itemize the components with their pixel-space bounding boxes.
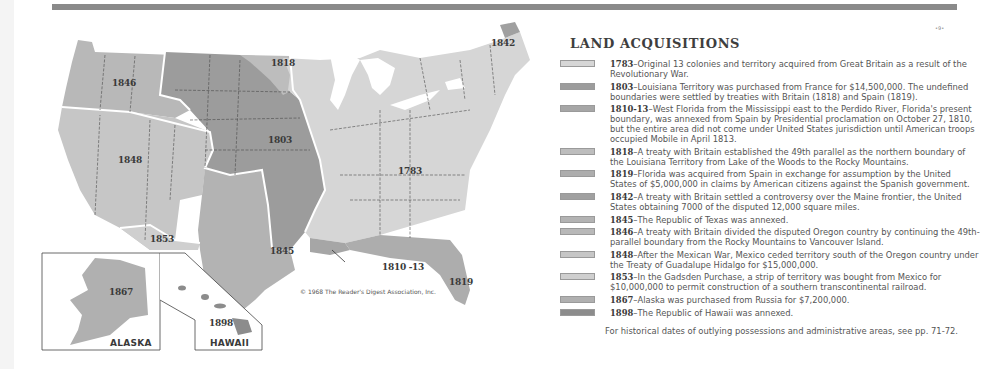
legend-swatch xyxy=(560,83,595,90)
copyright-notice: © 1968 The Reader's Digest Association, … xyxy=(300,288,436,295)
legend-text: The Republic of Texas was annexed. xyxy=(638,215,789,225)
legend-swatch xyxy=(560,105,595,112)
legend-swatch xyxy=(560,228,595,235)
label-1898: 1898 xyxy=(209,318,233,328)
legend-list: 1783–Original 13 colonies and territory … xyxy=(560,59,980,318)
legend-swatch xyxy=(560,296,595,303)
legend-swatch xyxy=(560,193,595,200)
legend-text: The Republic of Hawaii was annexed. xyxy=(638,308,794,318)
legend-year: 1848 xyxy=(610,250,633,260)
legend-text: Alaska was purchased from Russia for $7,… xyxy=(638,295,850,305)
region-1783 xyxy=(283,32,530,243)
legend-text: A treaty with Britain divided the disput… xyxy=(610,227,980,247)
legend-text: Louisiana Territory was purchased from F… xyxy=(610,82,968,102)
legend-year: 1842 xyxy=(610,192,633,202)
legend-swatch xyxy=(560,251,595,258)
legend-text: After the Mexican War, Mexico ceded terr… xyxy=(610,250,978,270)
legend-panel: LAND ACQUISITIONS 1783–Original 13 colon… xyxy=(560,36,980,336)
legend-year: 1803 xyxy=(610,82,633,92)
legend-swatch xyxy=(560,216,595,223)
legend-text: Original 13 colonies and territory acqui… xyxy=(610,59,967,79)
legend-year: 1818 xyxy=(610,147,633,157)
label-1842: 1842 xyxy=(491,38,515,48)
legend-title: LAND ACQUISITIONS xyxy=(570,36,980,51)
us-land-acquisitions-map: 1846 1818 1803 1848 1783 1842 1853 1845 … xyxy=(0,0,560,369)
legend-text: In the Gadsden Purchase, a strip of terr… xyxy=(610,272,941,292)
legend-item: 1819–Florida was acquired from Spain in … xyxy=(560,169,980,189)
label-1803: 1803 xyxy=(268,135,292,145)
legend-year: 1898 xyxy=(610,308,633,318)
label-1819: 1819 xyxy=(449,277,473,287)
legend-text: West Florida from the Mississippi east t… xyxy=(610,104,975,144)
label-1867: 1867 xyxy=(109,287,133,297)
legend-text: Florida was acquired from Spain in excha… xyxy=(610,169,970,189)
alaska-inset-label: ALASKA xyxy=(110,338,152,348)
legend-year: 1867 xyxy=(610,295,633,305)
legend-swatch xyxy=(560,60,595,67)
legend-item: 1803–Louisiana Territory was purchased f… xyxy=(560,82,980,102)
legend-item: 1898–The Republic of Hawaii was annexed. xyxy=(560,308,980,318)
legend-item: 1846–A treaty with Britain divided the d… xyxy=(560,227,980,247)
legend-swatch xyxy=(560,273,595,280)
legend-item: 1848–After the Mexican War, Mexico ceded… xyxy=(560,250,980,270)
legend-item: 1842–A treaty with Britain settled a con… xyxy=(560,192,980,212)
legend-year: 1819 xyxy=(610,169,633,179)
legend-year: 1783 xyxy=(610,59,633,69)
label-1845: 1845 xyxy=(270,246,294,256)
legend-item: 1818–A treaty with Britain established t… xyxy=(560,147,980,167)
map-graphic xyxy=(0,0,560,369)
legend-item: 1810-13–West Florida from the Mississipp… xyxy=(560,104,980,144)
legend-year: 1853 xyxy=(610,272,633,282)
label-1853: 1853 xyxy=(150,234,174,244)
legend-item: 1867–Alaska was purchased from Russia fo… xyxy=(560,295,980,305)
legend-text: A treaty with Britain settled a controve… xyxy=(610,192,962,212)
legend-year: 1846 xyxy=(610,227,633,237)
legend-swatch xyxy=(560,309,595,316)
label-1783: 1783 xyxy=(398,166,422,176)
label-1848: 1848 xyxy=(118,155,142,165)
legend-item: 1783–Original 13 colonies and territory … xyxy=(560,59,980,79)
legend-footnote: For historical dates of outlying possess… xyxy=(605,326,980,336)
legend-item: 1845–The Republic of Texas was annexed. xyxy=(560,215,980,225)
label-1818: 1818 xyxy=(271,58,295,68)
legend-swatch xyxy=(560,170,595,177)
page-mark: •9• xyxy=(935,25,944,31)
legend-text: A treaty with Britain established the 49… xyxy=(610,147,965,167)
label-1846: 1846 xyxy=(112,78,136,88)
legend-item: 1853–In the Gadsden Purchase, a strip of… xyxy=(560,272,980,292)
legend-swatch xyxy=(560,148,595,155)
legend-year: 1810-13 xyxy=(610,104,648,114)
legend-year: 1845 xyxy=(610,215,633,225)
label-1810-13: 1810 -13 xyxy=(382,262,424,272)
hawaii-inset-label: HAWAII xyxy=(210,338,249,348)
